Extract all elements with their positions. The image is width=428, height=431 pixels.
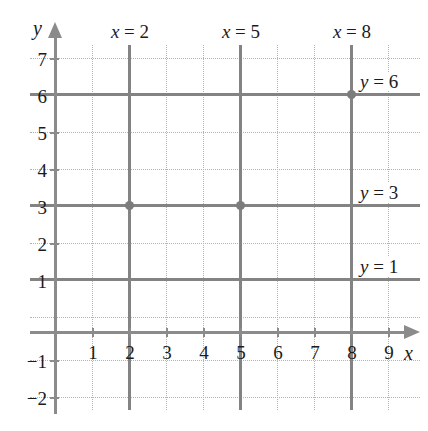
gridline-y-7 (30, 58, 420, 59)
x-tick-label-5: 5 (236, 343, 246, 362)
x-tick-label-7: 7 (310, 343, 320, 362)
label-y-equals-3: y = 3 (358, 183, 400, 202)
gridline-y-2 (30, 243, 420, 244)
y-tick-label-4: 4 (38, 161, 48, 180)
x-tick-5 (240, 328, 242, 337)
y-tick-label-6: 6 (38, 87, 48, 106)
y-axis-arrow (48, 22, 62, 38)
x-tick-8 (351, 328, 353, 337)
y-tick-label-1: 1 (38, 272, 48, 291)
label-y-equals-1-val: 1 (389, 256, 399, 277)
x-axis-label: x (404, 343, 413, 363)
y-tick-label-3: 3 (38, 198, 48, 217)
label-y-equals-1: y = 1 (358, 257, 400, 276)
label-x-equals-5-rel: = (230, 21, 250, 42)
x-tick-label-3: 3 (162, 343, 172, 362)
point-2-3 (125, 201, 134, 210)
y-tick-label-5: 5 (38, 124, 48, 143)
x-tick-label-4: 4 (199, 343, 209, 362)
label-x-equals-5-val: 5 (251, 21, 261, 42)
x-tick-label-1: 1 (88, 343, 98, 362)
label-y-equals-6-rel: = (368, 71, 388, 92)
label-x-equals-5: x = 5 (220, 22, 262, 41)
y-tick-2 (50, 243, 59, 245)
gridline-y-5 (30, 132, 420, 133)
line-y-equals-1 (30, 278, 420, 281)
x-tick-1 (92, 328, 94, 337)
x-tick-label-2: 2 (125, 343, 135, 362)
label-x-equals-8-rel: = (341, 21, 361, 42)
y-tick-5 (50, 132, 59, 134)
y-tick-4 (50, 169, 59, 171)
x-axis-arrow (404, 325, 420, 339)
x-tick-2 (129, 328, 131, 337)
x-tick-label-9: 9 (384, 343, 394, 362)
y-axis (54, 36, 57, 414)
label-x-equals-2: x = 2 (109, 22, 151, 41)
y-tick-label-m1: −1 (27, 352, 47, 371)
label-y-equals-3-val: 3 (389, 182, 399, 203)
gridline-y-4 (30, 169, 420, 170)
label-y-equals-6: y = 6 (358, 72, 400, 91)
x-tick-9 (388, 328, 390, 337)
point-8-6 (347, 90, 356, 99)
label-x-equals-2-rel: = (119, 21, 139, 42)
label-x-equals-8-val: 8 (362, 21, 372, 42)
y-tick-m1 (50, 360, 59, 362)
coordinate-plane-figure: 1 2 3 4 5 6 7 8 9 7 6 5 4 3 2 1 −1 −2 y … (0, 0, 428, 431)
x-tick-6 (277, 328, 279, 337)
y-tick-label-2: 2 (38, 235, 48, 254)
x-tick-3 (166, 328, 168, 337)
x-axis (30, 331, 412, 334)
y-tick-7 (50, 58, 59, 60)
label-x-equals-8: x = 8 (331, 22, 373, 41)
line-y-equals-6 (30, 93, 420, 96)
label-x-equals-2-val: 2 (140, 21, 150, 42)
gridline-y-m2 (30, 397, 420, 398)
y-axis-label: y (33, 18, 42, 38)
label-y-equals-3-rel: = (368, 182, 388, 203)
label-y-equals-1-rel: = (368, 256, 388, 277)
label-y-equals-6-val: 6 (389, 71, 399, 92)
y-tick-label-m2: −2 (27, 389, 47, 408)
y-tick-m2 (50, 397, 59, 399)
y-tick-label-7: 7 (38, 50, 48, 69)
point-5-3 (236, 201, 245, 210)
line-y-equals-3 (30, 204, 420, 207)
x-tick-label-8: 8 (347, 343, 357, 362)
gridline-y-0 (30, 317, 420, 318)
x-tick-4 (203, 328, 205, 337)
x-tick-7 (314, 328, 316, 337)
x-tick-label-6: 6 (273, 343, 283, 362)
